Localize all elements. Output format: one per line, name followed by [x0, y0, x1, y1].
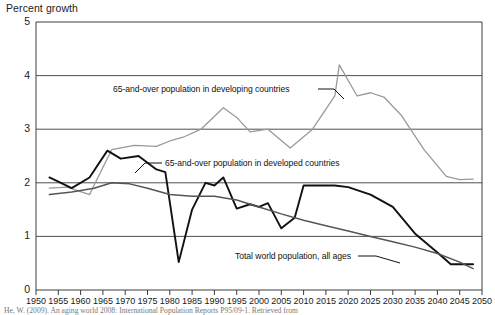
y-tick-label: 4 — [16, 69, 30, 81]
y-tick-label: 5 — [16, 15, 30, 27]
y-tick-label: 1 — [16, 229, 30, 241]
y-tick-label: 2 — [16, 176, 30, 188]
x-tick-label: 2050 — [469, 296, 495, 306]
x-axis-ticks — [36, 290, 482, 295]
leader-line-total-world-hook — [376, 256, 400, 263]
y-tick-label: 3 — [16, 122, 30, 134]
series-annotation-1: 65-and-over population in developing cou… — [113, 84, 289, 94]
series-annotation-3: Total world population, all ages — [235, 251, 351, 261]
series-annotation-2: 65-and-over population in developed coun… — [165, 158, 340, 168]
y-tick-label: 0 — [16, 283, 30, 295]
source-note: He, W. (2009). An aging world 2008: Inte… — [4, 306, 298, 315]
leader-line-developed-hook — [135, 163, 145, 173]
